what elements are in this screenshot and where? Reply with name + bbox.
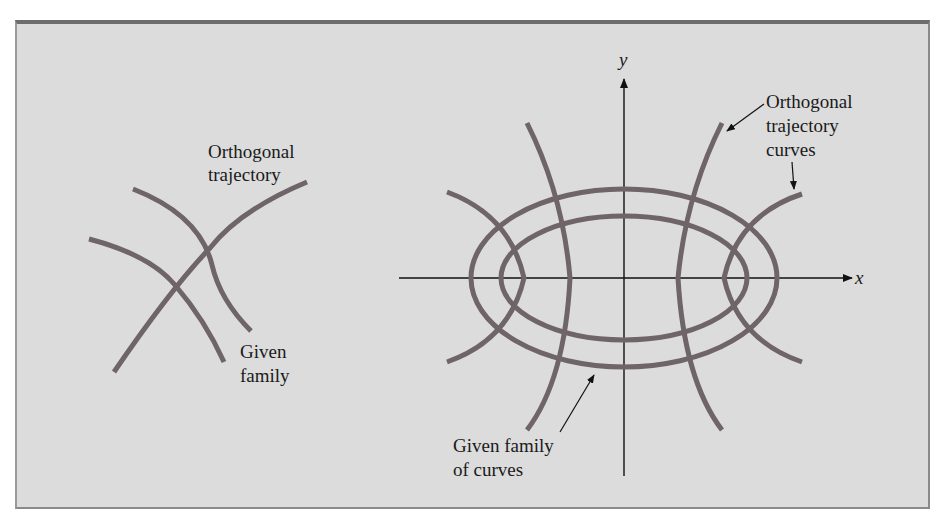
given-family-label-line1: Given — [240, 341, 287, 362]
given-family-curves-label-line1: Given family — [453, 435, 554, 456]
left-diagram: Orthogonal trajectory Given family — [89, 141, 307, 386]
orthogonal-curves-label-line3: curves — [766, 139, 816, 160]
right-diagram: x y Orthogonal trajectory curves Given f… — [399, 49, 864, 480]
orthogonal-trajectory-label-line2: trajectory — [208, 164, 281, 185]
orthogonal-curve-right — [678, 123, 722, 430]
x-axis-label: x — [854, 267, 864, 288]
given-family-curves-label-line2: of curves — [453, 459, 523, 480]
y-axis-label: y — [617, 49, 628, 70]
orthogonal-trajectory-label-line1: Orthogonal — [208, 141, 295, 162]
orthogonal-curves-label-line2: trajectory — [766, 115, 839, 136]
given-family-pointer-arrow — [560, 375, 594, 432]
given-family-label-line2: family — [240, 365, 290, 386]
orthogonal-trajectories-figure: Orthogonal trajectory Given family x y O… — [0, 0, 948, 529]
orthogonal-curves-label-line1: Orthogonal — [766, 91, 853, 112]
orthogonal-curve-left — [527, 123, 570, 430]
orthogonal-curves-pointer-arrow-1 — [727, 104, 764, 131]
orthogonal-curves-pointer-arrow-2 — [792, 162, 794, 189]
